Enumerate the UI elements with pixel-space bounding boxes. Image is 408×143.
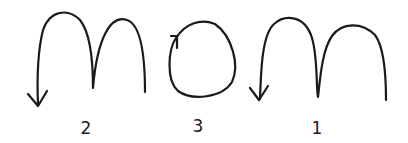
mom-stroke-diagram [0, 0, 408, 143]
letter-m-left [28, 13, 145, 106]
stroke-order-label-o: 3 [193, 116, 204, 136]
letter-m-right [250, 18, 386, 100]
stroke-order-label-right-m: 1 [312, 118, 323, 138]
stroke-order-label-left-m: 2 [81, 118, 92, 138]
letter-o-middle [170, 22, 236, 97]
